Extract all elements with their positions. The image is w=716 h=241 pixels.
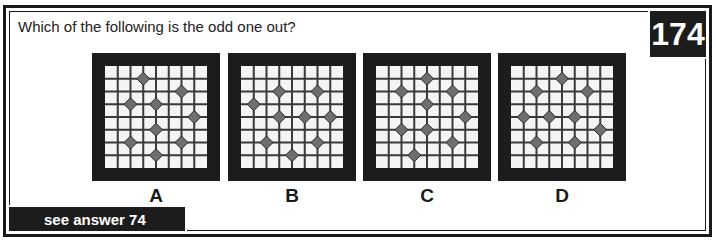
grid-svg <box>511 66 613 168</box>
option-c-label: C <box>363 185 491 207</box>
diamond-marker <box>150 149 163 162</box>
diamond-marker <box>459 111 472 124</box>
diamond-marker <box>395 85 408 98</box>
diamond-marker <box>150 98 163 111</box>
diamond-marker <box>175 85 188 98</box>
diamond-marker <box>311 136 324 149</box>
diamond-marker <box>408 149 421 162</box>
diamond-marker <box>188 111 201 124</box>
diamond-marker <box>286 149 299 162</box>
diamond-marker <box>311 85 324 98</box>
diamond-marker <box>446 136 459 149</box>
diamond-marker <box>556 72 569 85</box>
see-answer-link[interactable]: see answer 74 <box>9 205 187 231</box>
grid-board <box>105 66 207 168</box>
diamond-marker <box>421 123 434 136</box>
grid-board <box>511 66 613 168</box>
diamond-marker <box>260 136 273 149</box>
grid-svg <box>241 66 343 168</box>
puzzle-number-badge: 174 <box>648 11 706 59</box>
diamond-marker <box>273 111 286 124</box>
diamond-marker <box>530 136 543 149</box>
diamond-marker <box>273 85 286 98</box>
diamond-marker <box>543 111 556 124</box>
option-d-label: D <box>498 185 626 207</box>
diamond-marker <box>421 72 434 85</box>
diamond-marker <box>568 111 581 124</box>
diamond-marker <box>517 111 530 124</box>
diamond-marker <box>568 136 581 149</box>
diamond-marker <box>124 136 137 149</box>
diamond-marker <box>298 111 311 124</box>
grid-board <box>241 66 343 168</box>
diamond-marker <box>175 136 188 149</box>
option-c-grid[interactable] <box>363 53 491 181</box>
grid-svg <box>105 66 207 168</box>
diamond-marker <box>137 72 150 85</box>
diamond-marker <box>247 98 260 111</box>
diamond-marker <box>395 123 408 136</box>
question-text: Which of the following is the odd one ou… <box>18 18 296 35</box>
diamond-marker <box>150 123 163 136</box>
puzzle-card-inner: Which of the following is the odd one ou… <box>9 11 706 231</box>
option-a-label: A <box>92 185 220 207</box>
grid-board <box>376 66 478 168</box>
diamond-marker <box>324 111 337 124</box>
diamond-marker <box>530 85 543 98</box>
diamond-marker <box>594 123 607 136</box>
diamond-marker <box>124 98 137 111</box>
grid-svg <box>376 66 478 168</box>
puzzle-card: Which of the following is the odd one ou… <box>3 5 712 237</box>
option-b-grid[interactable] <box>228 53 356 181</box>
option-a-grid[interactable] <box>92 53 220 181</box>
diamond-marker <box>581 85 594 98</box>
option-d-grid[interactable] <box>498 53 626 181</box>
option-b-label: B <box>228 185 356 207</box>
diamond-marker <box>446 85 459 98</box>
diamond-marker <box>421 98 434 111</box>
